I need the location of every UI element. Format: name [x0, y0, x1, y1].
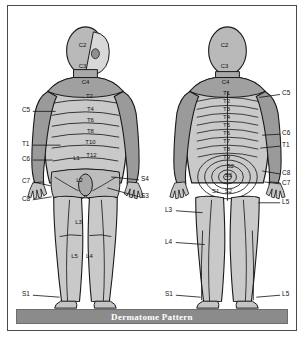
dermatome-label-l4: L4 [165, 238, 173, 245]
dermatome-label-t1: T1 [282, 141, 290, 148]
dermatome-label-c3: C3 [221, 63, 229, 69]
dermatome-label-l3: L3 [165, 206, 173, 213]
dermatome-label-c7: C7 [22, 177, 31, 184]
dermatome-label-c3: C3 [79, 63, 87, 69]
dermatome-label-l4: L4 [86, 253, 93, 259]
leader-line-s1 [33, 295, 60, 297]
dermatome-label-s1: S1 [212, 188, 220, 194]
dermatome-label-c5: C5 [282, 89, 291, 96]
leader-line-l5 [256, 295, 280, 297]
dermatome-label-l1: L1 [73, 155, 80, 161]
dermatome-label-t2: T2 [86, 93, 94, 99]
dermatome-label-t7: T7 [223, 138, 231, 144]
caption-text: Dermatome Pattern [111, 312, 193, 322]
anterior-figure [28, 27, 143, 308]
dermatome-label-c5: C5 [22, 106, 31, 113]
dermatome-label-s2: S2 [225, 188, 233, 194]
dermatome-label-c6: C6 [22, 155, 31, 162]
dermatome-label-t2: T2 [223, 98, 231, 104]
dermatome-label-t6: T6 [87, 117, 95, 123]
dermatome-label-t4: T4 [87, 106, 95, 112]
dermatome-label-t5: T5 [223, 122, 231, 128]
dermatome-label-t6: T6 [223, 130, 231, 136]
dermatome-label-t3: T3 [223, 106, 231, 112]
dermatome-label-c2: C2 [79, 42, 87, 48]
caption-bar: Dermatome Pattern [16, 309, 288, 324]
dermatome-label-s1: S1 [165, 290, 173, 297]
dermatome-label-c2: C2 [221, 42, 229, 48]
dermatome-label-t9: T9 [223, 154, 231, 160]
dermatome-label-s1: S1 [22, 290, 30, 297]
leader-line-s1 [176, 295, 201, 297]
dermatome-figure-frame: C2C3C4T2T4T6T8T10T12L1L2L3L5L4C5T1C6C7C8… [7, 5, 297, 331]
dermatome-label-c8: C8 [22, 195, 31, 202]
dermatome-label-l2: L2 [76, 177, 83, 183]
dermatome-label-s2: S2 [227, 163, 235, 169]
dermatome-label-l5: L5 [282, 290, 290, 297]
dermatome-label-c7: C7 [282, 179, 291, 186]
dermatome-label-l5: L5 [71, 253, 78, 259]
dermatome-label-c4: C4 [222, 79, 230, 85]
dermatome-label-s3: S3 [141, 192, 149, 199]
dermatome-label-t12: T12 [86, 152, 97, 158]
dermatome-label-t4: T4 [223, 114, 231, 120]
dermatome-label-c4: C4 [82, 79, 90, 85]
dermatome-label-t10: T10 [85, 139, 96, 145]
dermatome-label-t8: T8 [223, 146, 231, 152]
dermatome-label-t8: T8 [87, 128, 95, 134]
dermatome-diagram: C2C3C4T2T4T6T8T10T12L1L2L3L5L4C5T1C6C7C8… [8, 6, 296, 330]
dermatome-label-c6: C6 [282, 129, 291, 136]
dermatome-label-c8: C8 [282, 169, 291, 176]
dermatome-label-s4: S4 [141, 175, 149, 182]
dermatome-label-l5: L5 [282, 198, 290, 205]
dermatome-label-t1: T1 [22, 140, 30, 147]
dermatome-label-l3: L3 [75, 219, 82, 225]
dermatome-label-s3: S3 [225, 172, 233, 178]
dermatome-label-t1: T1 [223, 90, 231, 96]
